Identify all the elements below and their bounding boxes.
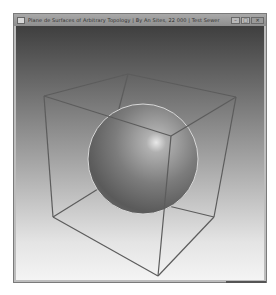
close-button[interactable]: ✕	[251, 17, 264, 24]
scene-canvas	[16, 26, 264, 280]
window-edge	[226, 281, 266, 283]
title-bar[interactable]: Plane de Surfaces of Arbitrary Topology …	[14, 14, 266, 26]
minimize-button[interactable]: –	[231, 17, 240, 24]
app-icon	[17, 17, 25, 24]
window-controls: – □ ✕	[231, 17, 264, 24]
3d-viewport[interactable]	[16, 26, 264, 280]
window-title: Plane de Surfaces of Arbitrary Topology …	[28, 17, 231, 23]
render-window: Plane de Surfaces of Arbitrary Topology …	[13, 13, 267, 283]
maximize-button[interactable]: □	[241, 17, 250, 24]
sphere	[88, 104, 198, 214]
